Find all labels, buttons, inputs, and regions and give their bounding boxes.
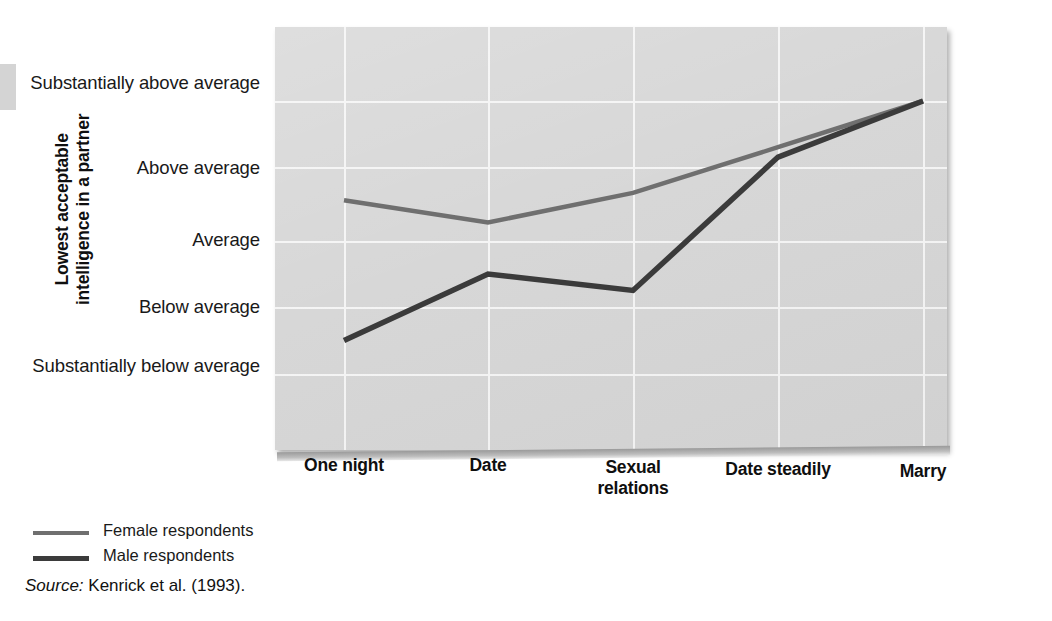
legend-item-male: Male respondents <box>33 546 453 571</box>
x-ticklabel-date: Date <box>438 455 538 476</box>
source-note: Source: Kenrick et al. (1993). <box>25 576 245 596</box>
figure-container: Lowest acceptable intelligence in a part… <box>0 0 1052 621</box>
y-axis-ticklabels: Substantially above average Above averag… <box>0 0 268 470</box>
legend-swatch-female <box>33 531 89 535</box>
series-lines <box>275 27 947 450</box>
legend-item-female: Female respondents <box>33 521 453 546</box>
x-ticklabel-sexual-relations: Sexual relations <box>576 457 690 499</box>
y-ticklabel-1: Above average <box>0 157 260 179</box>
y-ticklabel-0: Substantially above average <box>0 72 260 94</box>
source-citation: Kenrick et al. (1993). <box>84 576 246 595</box>
x-ticklabel-date-steadily: Date steadily <box>724 459 832 480</box>
line-female-respondents <box>344 101 923 223</box>
line-male-respondents <box>344 101 923 341</box>
plot-area <box>275 27 947 450</box>
source-label: Source: <box>25 576 84 595</box>
legend-label-female: Female respondents <box>103 521 253 540</box>
x-ticklabel-marry: Marry <box>873 461 973 482</box>
y-ticklabel-4: Substantially below average <box>0 355 260 377</box>
y-ticklabel-3: Below average <box>0 296 260 318</box>
legend-label-male: Male respondents <box>103 546 234 565</box>
legend-swatch-male <box>33 556 89 561</box>
legend: Female respondents Male respondents <box>33 521 453 571</box>
x-ticklabel-one-night: One night <box>294 455 394 476</box>
y-ticklabel-2: Average <box>0 229 260 251</box>
